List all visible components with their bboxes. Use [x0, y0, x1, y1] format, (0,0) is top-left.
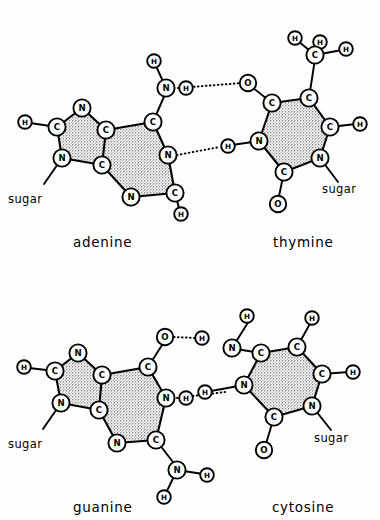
svg-text:H: H	[183, 84, 189, 93]
svg-text:H: H	[292, 34, 298, 43]
svg-text:C: C	[306, 93, 312, 103]
atom-C: C	[275, 163, 292, 180]
atom-N: N	[303, 397, 320, 414]
svg-text:N: N	[228, 343, 235, 353]
atom-N: N	[73, 99, 90, 116]
svg-text:C: C	[52, 366, 58, 376]
svg-text:H: H	[244, 312, 250, 321]
svg-text:O: O	[244, 78, 251, 88]
atom-H: H	[305, 311, 319, 325]
svg-text:H: H	[309, 314, 315, 323]
atom-H: H	[288, 31, 302, 45]
svg-text:C: C	[312, 50, 318, 60]
svg-text:C: C	[258, 348, 264, 358]
pair-adenine-thymine: N C H N C C C N C N H N H H O C C C H	[8, 31, 367, 250]
svg-text:N: N	[308, 401, 315, 411]
adenine-sugar-label: sugar	[8, 192, 42, 206]
svg-text:N: N	[78, 103, 85, 113]
svg-text:H: H	[178, 210, 184, 219]
svg-text:H: H	[350, 368, 356, 377]
svg-text:N: N	[58, 153, 65, 163]
svg-text:C: C	[294, 342, 300, 352]
atom-H: H	[200, 468, 214, 482]
atom-H: H	[240, 309, 254, 323]
svg-text:C: C	[269, 98, 275, 108]
svg-text:N: N	[127, 192, 134, 202]
svg-text:N: N	[316, 153, 323, 163]
atom-N: N	[311, 149, 328, 166]
svg-text:H: H	[317, 38, 323, 47]
label-adenine: adenine	[73, 234, 132, 250]
guanine-sugar-label: sugar	[8, 437, 42, 451]
atom-C: C	[166, 184, 183, 201]
svg-text:N: N	[57, 398, 64, 408]
svg-text:N: N	[162, 83, 169, 93]
svg-text:H: H	[161, 493, 167, 502]
thymine-sugar-label: sugar	[322, 182, 356, 196]
atom-C: C	[300, 89, 317, 106]
svg-text:N: N	[164, 150, 171, 160]
svg-text:C: C	[54, 122, 60, 132]
atom-O: O	[270, 196, 286, 212]
svg-text:H: H	[357, 120, 363, 129]
atom-C: C	[263, 94, 280, 111]
atom-H: H	[179, 81, 193, 95]
atom-O: O	[256, 442, 272, 458]
svg-text:N: N	[173, 465, 180, 475]
atom-C: C	[48, 118, 65, 135]
svg-text:N: N	[74, 348, 81, 358]
svg-text:N: N	[240, 380, 247, 390]
atom-C: C	[97, 121, 114, 138]
atom-N: N	[108, 434, 125, 451]
svg-text:C: C	[99, 370, 105, 380]
atom-N: N	[223, 339, 240, 356]
pair-guanine-cytosine: N C H N C C C N C N O N H H H N H C C	[8, 309, 360, 515]
atom-H: H	[179, 391, 193, 405]
svg-text:O: O	[260, 445, 267, 455]
atom-H: H	[198, 385, 212, 399]
atom-N: N	[122, 188, 139, 205]
svg-text:H: H	[202, 388, 208, 397]
atom-H: H	[353, 117, 367, 131]
atom-C: C	[90, 401, 107, 418]
svg-text:C: C	[150, 117, 156, 127]
atom-C: C	[321, 118, 338, 135]
atom-N: N	[53, 149, 70, 166]
atom-H: H	[147, 54, 161, 68]
atom-C: C	[313, 365, 330, 382]
svg-text:C: C	[281, 167, 287, 177]
base-pair-svg: N C H N C C C N C N H N H H O C C C H	[0, 0, 380, 520]
atom-N: N	[157, 389, 174, 406]
svg-text:H: H	[183, 394, 189, 403]
atom-C: C	[139, 358, 156, 375]
svg-text:O: O	[161, 332, 168, 342]
svg-text:C: C	[145, 362, 151, 372]
adenine-atoms: N C H N C C C N C N H N H H	[18, 54, 193, 221]
svg-text:N: N	[162, 393, 169, 403]
atom-H: H	[157, 490, 171, 504]
atom-H: H	[339, 42, 353, 56]
atom-N: N	[235, 376, 252, 393]
label-thymine: thymine	[273, 234, 334, 250]
svg-text:C: C	[319, 369, 325, 379]
svg-text:C: C	[96, 405, 102, 415]
base-pair-figure: N C H N C C C N C N H N H H O C C C H	[0, 0, 380, 520]
svg-text:C: C	[271, 412, 277, 422]
svg-text:N: N	[113, 438, 120, 448]
svg-text:N: N	[255, 136, 262, 146]
atom-N: N	[157, 79, 174, 96]
atom-H: H	[18, 115, 32, 129]
atom-N: N	[250, 132, 267, 149]
atom-C: C	[306, 46, 323, 63]
atom-C: C	[288, 338, 305, 355]
svg-text:H: H	[225, 142, 231, 151]
svg-text:C: C	[327, 122, 333, 132]
atom-H: H	[174, 207, 188, 221]
atom-N: N	[52, 394, 69, 411]
atom-C: C	[46, 362, 63, 379]
atom-C: C	[147, 431, 164, 448]
svg-text:H: H	[21, 363, 27, 372]
atom-C: C	[252, 344, 269, 361]
atom-C: C	[93, 156, 110, 173]
atom-H: H	[195, 331, 209, 345]
